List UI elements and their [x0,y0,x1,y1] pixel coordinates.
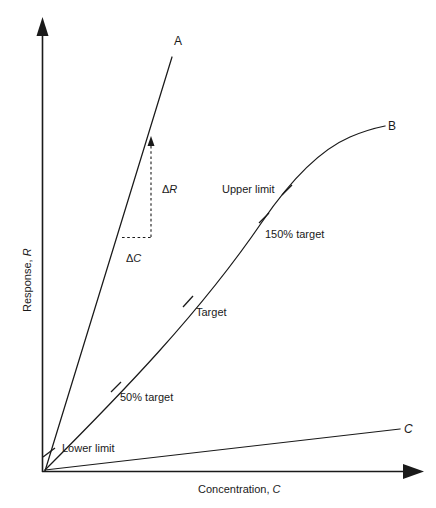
50-target-label: 50% target [120,392,173,403]
150-target-label: 150% target [265,229,324,240]
tick-target [183,296,193,307]
y-axis-label: Response, R [22,248,33,312]
x-axis-label: Concentration, C [198,484,281,495]
y-axis-label-text: Response, [21,256,33,312]
chart-plot-area [0,0,436,508]
target-label: Target [196,307,227,318]
delta-r-annotation: ΔR [162,184,177,195]
y-axis [37,17,49,472]
curve-b [45,126,385,470]
x-axis-label-variable: C [273,483,281,495]
delta-c-annotation: ΔC [126,253,141,264]
curve-a-label: A [174,35,182,47]
delta-r-variable: R [169,183,177,195]
upper-limit-label: Upper limit [222,184,275,195]
curve-b-tick-marks [43,185,292,457]
curve-a [45,57,172,471]
delta-c-variable: C [133,252,141,264]
tick-150-target [259,213,269,223]
chart-figure: A B C ΔR ΔC Upper limit 150% target Targ… [0,0,436,508]
tick-upper-limit [282,185,292,195]
x-axis [42,464,424,479]
curve-c-label: C [404,423,413,435]
x-axis-label-text: Concentration, [198,483,273,495]
y-axis-label-variable: R [21,248,33,256]
tick-lower-limit [43,448,55,457]
slope-triangle-annotation [122,136,155,238]
lower-limit-label: Lower limit [62,443,115,454]
curve-b-label: B [388,120,396,132]
